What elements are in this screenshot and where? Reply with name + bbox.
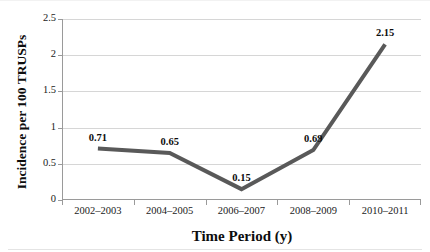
figure-top-rule — [0, 0, 430, 1]
data-point-label: 2.15 — [376, 27, 394, 38]
y-tick-label: 1.5 — [43, 84, 56, 95]
x-tick-label: 2008–2009 — [277, 205, 349, 223]
x-axis-title: Time Period (y) — [62, 228, 422, 245]
y-tick-label: 0.5 — [43, 157, 56, 168]
y-tick-label: 1 — [51, 121, 56, 132]
x-tick-label: 2006–2007 — [206, 205, 278, 223]
data-point-label: 0.15 — [232, 172, 250, 183]
data-point-label: 0.69 — [304, 133, 322, 144]
figure-bottom-rule — [8, 249, 422, 250]
x-axis-tick-labels: 2002–2003 2004–2005 2006–2007 2008–2009 … — [62, 205, 421, 223]
x-tick-label: 2002–2003 — [62, 205, 134, 223]
plot-area: 0.710.650.150.692.15 — [62, 19, 421, 200]
x-tick-label: 2010–2011 — [349, 205, 421, 223]
y-axis-tick-labels: 0 0.5 1 1.5 2 2.5 — [30, 19, 56, 200]
y-tick-label: 2.5 — [43, 12, 56, 23]
y-tick-label: 2 — [51, 48, 56, 59]
chart-figure: Incidence per 100 TRUSPs 0 0.5 1 1.5 2 2… — [0, 0, 430, 252]
data-point-label: 0.65 — [161, 136, 179, 147]
y-axis-title: Incidence per 100 TRUSPs — [14, 0, 30, 227]
y-tick-label: 0 — [51, 193, 56, 204]
data-point-label: 0.71 — [89, 132, 107, 143]
x-tick-label: 2004–2005 — [134, 205, 206, 223]
